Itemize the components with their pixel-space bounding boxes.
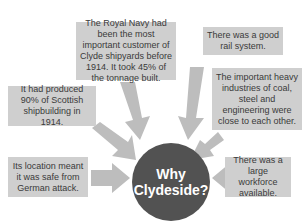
hub-circle: Why Clydeside? — [132, 143, 210, 221]
arrow-produced — [92, 122, 136, 160]
arrow-royal-navy — [120, 82, 150, 140]
reason-heavy-industry: The important heavy industries of coal, … — [212, 68, 302, 130]
hub-line1: Why — [156, 166, 186, 182]
reason-workforce: There was a large workforce available. — [225, 157, 291, 197]
reason-location: Its location meant it was safe from Germ… — [8, 157, 88, 197]
reason-produced: It had produced 90% of Scottish shipbuil… — [8, 86, 96, 126]
reason-royal-navy: The Royal Navy had been the most importa… — [76, 22, 176, 80]
arrow-rail — [178, 67, 204, 140]
hub-line2: Clydeside? — [134, 182, 209, 198]
reason-rail: There was a good rail system. — [203, 27, 283, 55]
arrow-location — [91, 163, 130, 193]
